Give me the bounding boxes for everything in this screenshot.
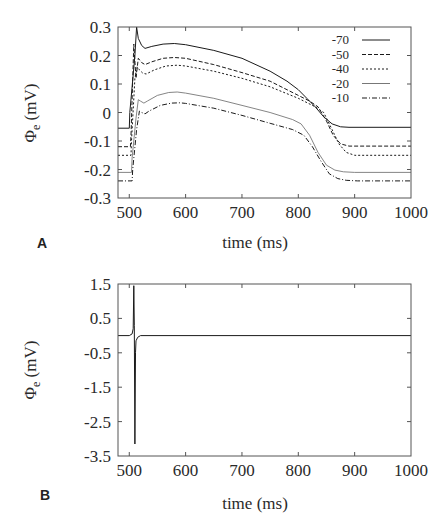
series-line-signal	[118, 286, 411, 444]
panel-b-frame	[118, 284, 411, 456]
y-tick-label: 1.5	[90, 275, 111, 294]
y-tick-label: -2.5	[84, 413, 111, 432]
panel-a-curves	[118, 27, 411, 181]
panel-b-x-axis: 5006007008009001000	[117, 284, 428, 480]
x-tick-label: 600	[173, 203, 199, 222]
y-tick-label: 0.3	[90, 18, 111, 37]
panel-b-y-axis-title: Φe (mV)	[21, 341, 43, 400]
x-tick-label: 800	[286, 203, 312, 222]
panel-a-y-axis-title: Φe (mV)	[21, 84, 43, 143]
series-line-m10	[118, 103, 411, 181]
legend-label: -40	[332, 61, 349, 76]
x-tick-label: 700	[229, 203, 255, 222]
x-tick-label: 1000	[394, 461, 428, 480]
x-tick-label: 700	[229, 461, 255, 480]
panel-b-chart: 5006007008009001000 1.50.5-0.5-1.5-2.5-3…	[21, 275, 428, 513]
panel-a-label: A	[37, 235, 47, 251]
series-line-m70	[118, 27, 411, 128]
figure: 5006007008009001000 0.30.20.10-0.1-0.2-0…	[0, 0, 447, 525]
x-tick-label: 500	[117, 203, 143, 222]
legend-label: -50	[332, 47, 349, 62]
x-tick-label: 800	[286, 461, 312, 480]
panel-a-x-axis: 5006007008009001000	[117, 27, 428, 222]
x-tick-label: 500	[117, 461, 143, 480]
panel-a-legend: -70-50-40-20-10	[332, 32, 390, 105]
panel-b-label: B	[40, 487, 50, 503]
y-tick-label: 0.5	[90, 309, 111, 328]
legend-label: -70	[332, 32, 349, 47]
x-tick-label: 600	[173, 461, 199, 480]
y-tick-label: -0.5	[84, 344, 111, 363]
y-tick-label: -1.5	[84, 378, 111, 397]
x-tick-label: 900	[342, 203, 368, 222]
legend-label: -10	[332, 90, 349, 105]
y-tick-label: -0.2	[84, 161, 111, 180]
series-line-m40	[118, 65, 411, 155]
legend-label: -20	[332, 76, 349, 91]
panel-a-chart: 5006007008009001000 0.30.20.10-0.1-0.2-0…	[21, 18, 428, 252]
panel-b-x-axis-title: time (ms)	[222, 494, 288, 513]
y-tick-label: 0.2	[90, 47, 111, 66]
y-tick-label: -3.5	[84, 447, 111, 466]
x-tick-label: 900	[342, 461, 368, 480]
panel-a-y-axis: 0.30.20.10-0.1-0.2-0.3	[84, 18, 411, 208]
y-tick-label: -0.3	[84, 189, 111, 208]
y-tick-label: -0.1	[84, 132, 111, 151]
x-tick-label: 1000	[394, 203, 428, 222]
series-line-m20	[118, 92, 411, 172]
y-tick-label: 0	[103, 104, 112, 123]
panel-b-curves	[118, 286, 411, 444]
y-tick-label: 0.1	[90, 75, 111, 94]
series-line-m50	[118, 44, 411, 147]
panel-a-x-axis-title: time (ms)	[222, 233, 288, 252]
